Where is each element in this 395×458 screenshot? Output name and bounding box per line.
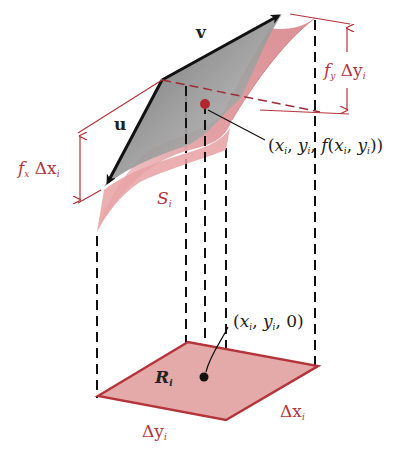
label-base-point: (xi, yi, 0) [233, 313, 304, 332]
label-v: v [196, 24, 206, 41]
label-point-on-surface: (xi, yi, f(xi, yi)) [268, 137, 383, 156]
label-fy-dy: fy Δyi [324, 62, 366, 81]
label-region-R: Ri [155, 369, 173, 388]
label-u: u [114, 116, 126, 133]
label-fx-dx: fx Δxi [18, 160, 60, 179]
base-point [200, 373, 209, 382]
label-base-dy: Δyi [142, 423, 167, 442]
label-surface-S: Si [157, 190, 172, 209]
label-base-dx: Δxi [280, 403, 305, 422]
surface-area-diagram: v u fy Δyi fx Δxi Si (xi, yi, f(xi, yi))… [0, 0, 395, 458]
surface-point [200, 99, 210, 109]
